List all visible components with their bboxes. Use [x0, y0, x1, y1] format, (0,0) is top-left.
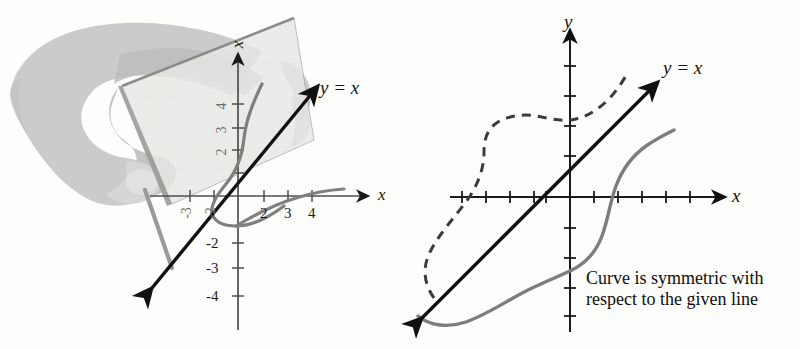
left-line-label: y = x: [320, 78, 359, 97]
left-xtick-neg2: -2: [204, 207, 218, 219]
left-panel-graphics: [0, 0, 400, 349]
left-ytick-3: 3: [215, 127, 229, 134]
left-ytick-2: 2: [215, 149, 229, 156]
left-ytick-neg3: -3: [206, 261, 219, 276]
left-vertical-axis-label: x: [229, 41, 246, 49]
left-xtick-neg3: -3: [180, 207, 194, 219]
right-vertical-axis-label: y: [564, 12, 572, 31]
left-ytick-neg4: -4: [206, 289, 219, 304]
right-line-label: y = x: [663, 58, 702, 77]
left-xtick-4: 4: [308, 206, 316, 221]
symmetry-caption: Curve is symmetric with respect to the g…: [586, 268, 763, 310]
figure-root: x x y = x 4 3 2 -2 -3 -4 -3 -2 2 3 4: [0, 0, 800, 349]
left-horizontal-axis-label: x: [378, 186, 386, 203]
left-xtick-3: 3: [284, 206, 292, 221]
left-panel-hand-flipping-sheet: x x y = x 4 3 2 -2 -3 -4 -3 -2 2 3 4: [0, 0, 400, 349]
right-panel-symmetry-graph: y x y = x Curve is symmetric with respec…: [400, 0, 800, 349]
right-dashed-curve: [425, 72, 628, 298]
left-ytick-neg2: -2: [206, 236, 219, 251]
right-horizontal-axis-label: x: [732, 186, 740, 205]
left-xtick-2: 2: [260, 206, 268, 221]
left-ytick-4: 4: [215, 103, 229, 110]
caption-line-2: respect to the given line: [586, 289, 763, 310]
caption-line-1: Curve is symmetric with: [586, 268, 763, 289]
